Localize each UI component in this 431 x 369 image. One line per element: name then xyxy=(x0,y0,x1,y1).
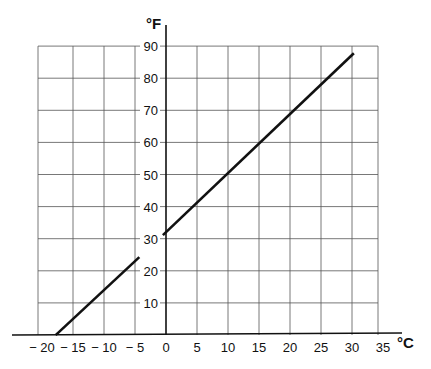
axes xyxy=(12,25,402,335)
x-tick-label: 5 xyxy=(193,340,200,355)
x-tick-label: − 20 xyxy=(29,340,55,355)
x-tick-label: 15 xyxy=(252,340,266,355)
y-tick-labels: 102030405060708090 xyxy=(140,39,160,311)
conversion-chart: − 20− 15− 10− 505101520253035 1020304050… xyxy=(0,0,431,369)
x-tick-label: 25 xyxy=(314,340,328,355)
data-line xyxy=(56,53,354,335)
y-tick-label: 70 xyxy=(144,103,158,118)
x-tick-label: 10 xyxy=(221,340,235,355)
y-tick-label: 80 xyxy=(144,71,158,86)
x-tick-label: − 10 xyxy=(91,340,117,355)
y-tick-label: 90 xyxy=(144,39,158,54)
x-tick-label: − 15 xyxy=(60,340,86,355)
x-tick-label: 30 xyxy=(345,340,359,355)
x-tick-label: − 5 xyxy=(126,340,144,355)
y-tick-label: 10 xyxy=(144,296,158,311)
y-tick-label: 60 xyxy=(144,135,158,150)
y-tick-label: 20 xyxy=(144,264,158,279)
x-tick-label: 35 xyxy=(376,340,390,355)
x-axis xyxy=(12,333,402,335)
data-line-segment xyxy=(56,257,140,335)
y-tick-label: 40 xyxy=(144,200,158,215)
data-line-segment xyxy=(163,53,354,235)
y-tick-label: 30 xyxy=(144,232,158,247)
y-axis-unit: °F xyxy=(146,15,161,32)
x-axis-unit: °C xyxy=(397,334,414,351)
y-tick-label: 50 xyxy=(144,168,158,183)
x-tick-labels: − 20− 15− 10− 505101520253035 xyxy=(29,340,390,355)
x-tick-label: 0 xyxy=(162,340,169,355)
x-tick-label: 20 xyxy=(283,340,297,355)
